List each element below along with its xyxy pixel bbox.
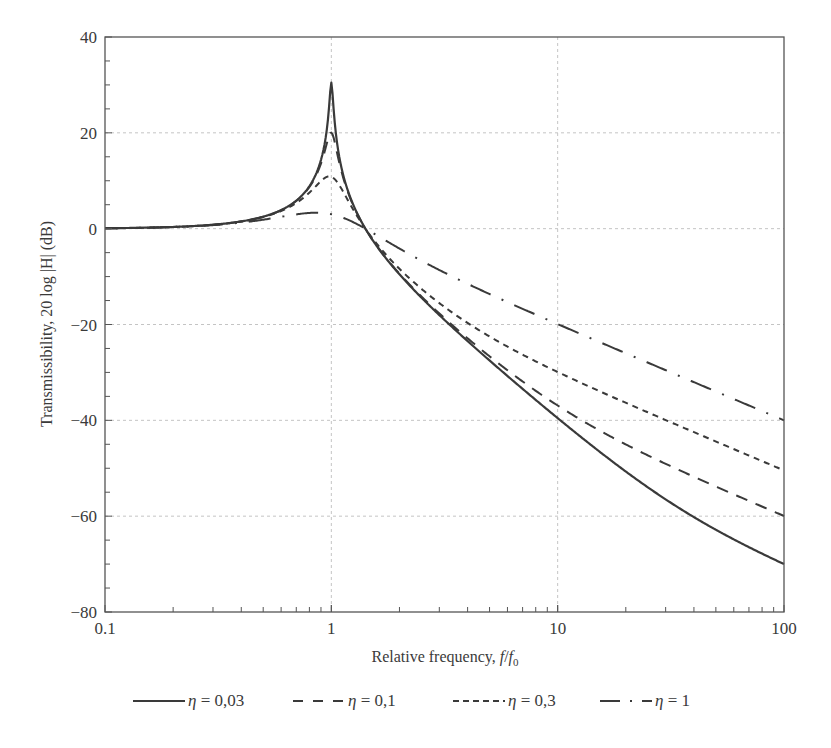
legend-solid-line-icon [133, 696, 185, 706]
grid-lines [105, 37, 784, 612]
legend-item-eta-1: η = 1 [600, 688, 690, 714]
x-tick-label: 1 [327, 619, 336, 638]
legend-label: η = 1 [655, 691, 690, 711]
legend-short-dash-line-icon [453, 696, 505, 706]
legend: η = 0,03 η = 0,1 η = 0,3 η = 1 [0, 688, 831, 714]
y-axis-title-text: Transmissibility, 20 log |H| (dB) [38, 221, 56, 427]
y-tick-label: 0 [89, 220, 98, 239]
legend-item-eta-0-3: η = 0,3 [453, 688, 556, 714]
x-tick-label: 10 [549, 619, 566, 638]
legend-item-eta-0-1: η = 0,1 [293, 688, 396, 714]
y-tick-label: 20 [80, 124, 97, 143]
y-tick-label: −80 [70, 603, 97, 622]
legend-label: η = 0,03 [188, 691, 244, 711]
y-axis-title: Transmissibility, 20 log |H| (dB) [38, 221, 56, 427]
y-tick-label: −40 [70, 411, 97, 430]
series-line-dash-dot [105, 213, 784, 421]
x-tick-label: 0.1 [94, 619, 115, 638]
y-tick-label: −20 [70, 316, 97, 335]
x-axis-title: Relative frequency, f/f0 [371, 648, 519, 668]
y-tick-label: −60 [70, 507, 97, 526]
y-tick-labels: −80−60−40−2002040 [70, 28, 97, 622]
y-tick-label: 40 [80, 28, 97, 47]
series-line-solid [105, 83, 784, 564]
series-line-short-dash [105, 176, 784, 470]
chart: −80−60−40−2002040 0.1110100 Transmissibi… [0, 0, 831, 748]
legend-long-dash-line-icon [293, 696, 345, 706]
data-series [105, 83, 784, 564]
x-tick-labels: 0.1110100 [94, 619, 796, 638]
legend-label: η = 0,3 [508, 691, 556, 711]
x-tick-label: 100 [771, 619, 797, 638]
x-axis-title-sub: 0 [513, 656, 519, 668]
x-axis-title-main: Relative frequency, [371, 648, 499, 666]
legend-label: η = 0,1 [348, 691, 396, 711]
legend-dash-dot-line-icon [600, 696, 652, 706]
legend-item-eta-0-03: η = 0,03 [133, 688, 244, 714]
